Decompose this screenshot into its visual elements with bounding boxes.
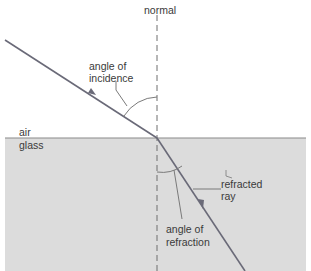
glass-label: glass [19, 139, 44, 151]
refracted-label-line2: ray [221, 190, 236, 202]
incident-ray [5, 40, 157, 138]
refraction-diagram: angle of incidence normal air glass angl… [0, 0, 311, 271]
incidence-angle-arc [124, 97, 157, 116]
refraction-label-line1: angle of [166, 223, 203, 235]
incidence-label-line1: angle of [89, 60, 126, 72]
refracted-label-line1: refracted [221, 178, 263, 190]
glass-region [5, 138, 306, 271]
normal-label: normal [144, 4, 176, 16]
incidence-leader [116, 81, 127, 106]
incidence-label-line2: incidence [89, 72, 134, 84]
air-label: air [19, 126, 31, 138]
refraction-label-line2: refraction [166, 236, 210, 248]
